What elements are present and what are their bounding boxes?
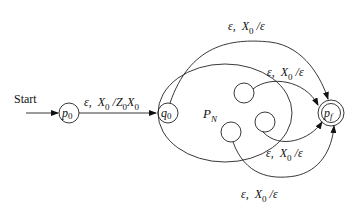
edge-bottom-label: ε,X0/ε (241, 187, 278, 204)
edge-mid-lower-label: ε,X0/ε (266, 146, 303, 163)
inner-state-3 (221, 122, 241, 142)
svg-text:pf: pf (323, 106, 334, 121)
pda-diagram: Start p0 ε,X0/Z0X0 PN q0 pf ε,X0/ε ε,X0/… (0, 0, 362, 211)
svg-text:q0: q0 (161, 106, 172, 121)
edge-mid-upper-label: ε,X0/ε (267, 65, 304, 82)
state-p0: p0 (59, 103, 79, 123)
inner-state-1 (234, 83, 254, 103)
edge-inner2-pf (263, 122, 322, 141)
edge-inner1-pf (253, 81, 318, 105)
edge-q0-pf-top (170, 41, 328, 103)
state-q0: q0 (158, 103, 178, 123)
inner-state-2 (255, 112, 275, 132)
edge-top-label: ε,X0/ε (228, 19, 265, 36)
start-label: Start (14, 92, 37, 106)
region-pn-label: PN (202, 106, 218, 124)
edge-p0-q0-label: ε,X0/Z0X0 (84, 95, 139, 112)
svg-text:p0: p0 (61, 106, 73, 121)
